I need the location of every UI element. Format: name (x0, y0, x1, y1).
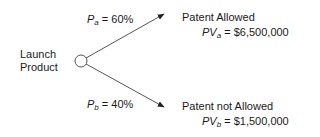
pv-a-symbol: PV (202, 26, 217, 38)
pv-b-value: = $1,500,000 (221, 115, 289, 127)
outcome-b-label: Patent not Allowed (182, 100, 289, 113)
pv-a: PVa = $6,500,000 (202, 26, 289, 39)
prob-b-value: = 40% (99, 98, 134, 110)
root-label: Launch Product (20, 48, 58, 74)
probability-a: Pa = 60% (87, 13, 133, 26)
pv-b: PVb = $1,500,000 (202, 115, 289, 128)
pv-a-value: = $6,500,000 (221, 26, 289, 38)
outcome-a-label: Patent Allowed (182, 11, 289, 24)
root-label-line2: Product (20, 61, 58, 74)
prob-a-value: = 60% (99, 13, 134, 25)
pv-b-symbol: PV (202, 115, 217, 127)
outcome-b: Patent not Allowed PVb = $1,500,000 (182, 100, 289, 128)
root-label-line1: Launch (20, 48, 58, 61)
outcome-a: Patent Allowed PVa = $6,500,000 (182, 11, 289, 39)
probability-b: Pb = 40% (87, 98, 133, 111)
chance-node (75, 55, 87, 67)
